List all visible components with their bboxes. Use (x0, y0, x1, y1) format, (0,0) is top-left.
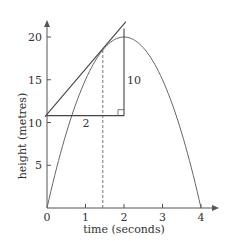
plot-area: 012345101520 (28, 20, 219, 224)
y-tick-label: 20 (28, 31, 42, 44)
y-axis-arrow-icon (44, 20, 50, 27)
right-angle-marker-icon (118, 110, 124, 116)
rise-label: 10 (127, 74, 141, 87)
x-tick-label: 0 (44, 211, 51, 224)
y-tick-label: 5 (35, 159, 42, 172)
height-time-chart: 012345101520 time (seconds) height (metr… (0, 0, 226, 241)
y-axis-label: height (metres) (16, 93, 29, 180)
x-axis-arrow-icon (212, 205, 219, 211)
tangent-line (45, 22, 126, 117)
x-axis-label: time (seconds) (83, 223, 165, 236)
x-tick-label: 4 (198, 211, 205, 224)
y-tick-label: 15 (28, 74, 42, 87)
y-tick-label: 10 (28, 117, 42, 130)
run-label: 2 (83, 117, 90, 130)
